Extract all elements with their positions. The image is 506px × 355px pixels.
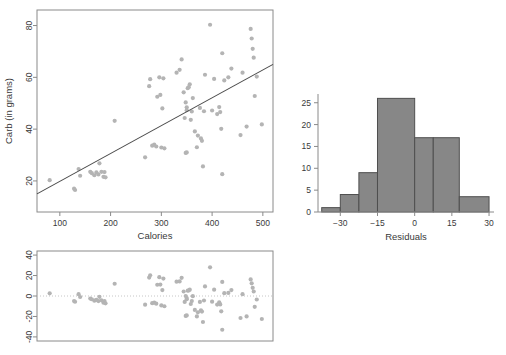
data-point [191, 96, 195, 100]
y-tick-label: 20 [24, 271, 34, 281]
residual-point [190, 299, 194, 303]
data-point [160, 106, 164, 110]
residual-point [212, 288, 216, 292]
histogram-bar [340, 195, 359, 212]
residual-point [162, 304, 166, 308]
data-point [48, 178, 52, 182]
residual-point [178, 279, 182, 283]
x-tick-label: 0 [412, 218, 417, 228]
data-point [212, 77, 216, 81]
y-tick-label: 20 [302, 120, 312, 130]
residual-plot: -40-2002040 [0, 243, 286, 355]
residual-point [229, 288, 233, 292]
residual-point [161, 277, 165, 281]
data-point [180, 57, 184, 61]
data-point [203, 73, 207, 77]
data-point [245, 124, 249, 128]
residual-point [201, 320, 205, 324]
residual-point [143, 303, 147, 307]
data-point [143, 155, 147, 159]
residual-point [220, 328, 224, 332]
x-tick-label: −30 [333, 218, 348, 228]
data-point [251, 47, 255, 51]
y-tick-label: -20 [24, 310, 34, 323]
x-tick-label: 400 [205, 218, 219, 228]
residual-point [195, 314, 199, 318]
residual-point [226, 291, 230, 295]
data-point [252, 56, 256, 60]
data-point [154, 144, 158, 148]
residual-point [200, 309, 204, 313]
residual-point [103, 301, 107, 305]
y-tick-label: -40 [24, 330, 34, 343]
data-point [250, 36, 254, 40]
residual-point [238, 316, 242, 320]
y-tick-label: 5 [306, 185, 311, 195]
residual-histogram: 0510152025−30−1501530Residuals [286, 80, 506, 255]
data-point [182, 90, 186, 94]
residual-point [154, 302, 158, 306]
data-point [202, 109, 206, 113]
residual-point [208, 265, 212, 269]
histogram-bar [377, 98, 414, 212]
residual-point [185, 297, 189, 301]
residual-point [260, 317, 264, 321]
data-point [260, 122, 264, 126]
residual-point [253, 305, 257, 309]
residual-point [240, 292, 244, 296]
y-tick-label: 80 [24, 21, 34, 31]
y-tick-label: 20 [24, 176, 34, 186]
residual-point [250, 281, 254, 285]
data-point [184, 100, 188, 104]
data-point [220, 172, 224, 176]
residual-point [78, 295, 82, 299]
residual-point [182, 289, 186, 293]
scatter-frame [37, 10, 273, 212]
x-tick-label: −15 [370, 218, 385, 228]
data-point [210, 108, 214, 112]
residual-point [148, 273, 152, 277]
residual-point [251, 286, 255, 290]
data-point [185, 150, 189, 154]
y-tick-label: 0 [24, 293, 34, 298]
data-point [229, 66, 233, 70]
data-point [78, 174, 82, 178]
data-point [97, 161, 101, 165]
data-point [198, 106, 202, 110]
y-tick-label: 10 [302, 163, 312, 173]
residual-point [180, 276, 184, 280]
y-tick-label: 15 [302, 141, 312, 151]
data-point [195, 145, 199, 149]
data-point [73, 188, 77, 192]
residual-point [222, 291, 226, 295]
residual-point [113, 282, 117, 286]
data-point [217, 105, 221, 109]
residual-point [48, 291, 52, 295]
residual-point [191, 294, 195, 298]
data-point [219, 127, 223, 131]
data-point [208, 23, 212, 27]
residual-panel: -40-2002040 [0, 243, 286, 355]
x-axis-label: Calories [138, 230, 173, 241]
residual-point [255, 297, 259, 301]
y-axis-label: Carb (in grams) [3, 78, 14, 144]
residual-point [73, 300, 77, 304]
data-point [189, 118, 193, 122]
x-tick-label: 100 [53, 218, 67, 228]
histogram-bar [433, 138, 459, 212]
y-tick-label: 40 [24, 124, 34, 134]
regression-line [37, 64, 273, 193]
residual-point [203, 284, 207, 288]
residual-point [185, 313, 189, 317]
data-point [102, 170, 106, 174]
residual-point [220, 280, 224, 284]
data-point [158, 93, 162, 97]
data-point [113, 119, 117, 123]
x-tick-label: 300 [154, 218, 168, 228]
residual-point [160, 288, 164, 292]
data-point [193, 129, 197, 133]
residual-point [252, 289, 256, 293]
data-point [253, 94, 257, 98]
residual-point [245, 314, 249, 318]
data-point [222, 78, 226, 82]
